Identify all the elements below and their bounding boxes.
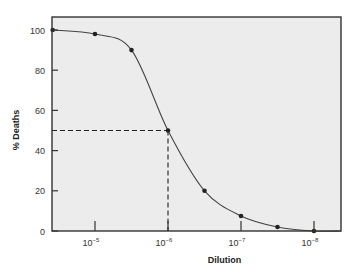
x-tick-label: 10−6 (156, 237, 174, 248)
x-axis-title: Dilution (208, 255, 242, 265)
x-tick-label: 10−5 (83, 237, 101, 248)
data-point (202, 189, 207, 194)
y-tick-label: 0 (40, 227, 45, 237)
data-point (129, 48, 134, 53)
plot-area (52, 17, 341, 231)
y-tick-label: 20 (35, 186, 45, 196)
chart: 020406080100 10−510−610−710−8 Dilution %… (0, 0, 354, 276)
x-tick-label: 10−7 (229, 237, 247, 248)
data-point (275, 225, 280, 230)
x-tick-label: 10−8 (302, 237, 320, 248)
data-point (166, 128, 171, 133)
y-tick-label: 60 (35, 106, 45, 116)
y-axis-title: % Deaths (11, 110, 21, 151)
y-tick-label: 80 (35, 66, 45, 76)
y-tick-label: 100 (30, 26, 45, 36)
data-point (239, 214, 244, 219)
y-tick-label: 40 (35, 146, 45, 156)
data-point (93, 32, 98, 37)
